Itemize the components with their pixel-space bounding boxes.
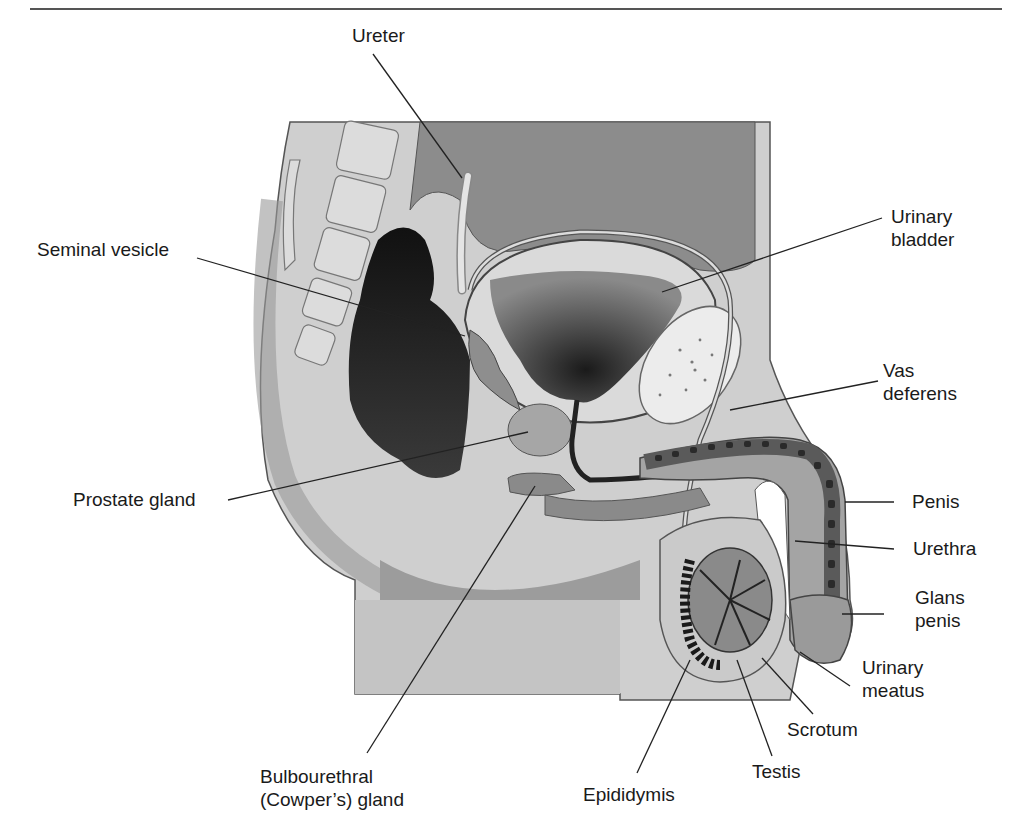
label-vas-deferens: Vas deferens [883,359,957,405]
label-testis: Testis [752,760,801,783]
label-line: deferens [883,382,957,405]
label-epididymis: Epididymis [583,783,675,806]
label-urethra: Urethra [913,537,976,560]
prostate-structure [508,404,572,456]
label-urinary-meatus: Urinary meatus [862,656,924,702]
anatomy-illustration [0,0,1021,838]
label-line: Vas [883,359,957,382]
label-line: Glans [915,586,965,609]
label-line: Urinary [891,205,954,228]
label-prostate-gland: Prostate gland [73,488,196,511]
label-line: (Cowper’s) gland [260,788,404,811]
label-seminal-vesicle: Seminal vesicle [37,238,169,261]
label-line: Bulbourethral [260,765,404,788]
label-line: Urinary [862,656,924,679]
label-scrotum: Scrotum [787,718,858,741]
label-ureter: Ureter [352,24,405,47]
label-line: bladder [891,228,954,251]
label-line: penis [915,609,965,632]
label-glans-penis: Glans penis [915,586,965,632]
glans-structure [790,595,852,663]
label-line: meatus [862,679,924,702]
label-bulbourethral-gland: Bulbourethral (Cowper’s) gland [260,765,404,811]
label-urinary-bladder: Urinary bladder [891,205,954,251]
label-penis: Penis [912,490,960,513]
